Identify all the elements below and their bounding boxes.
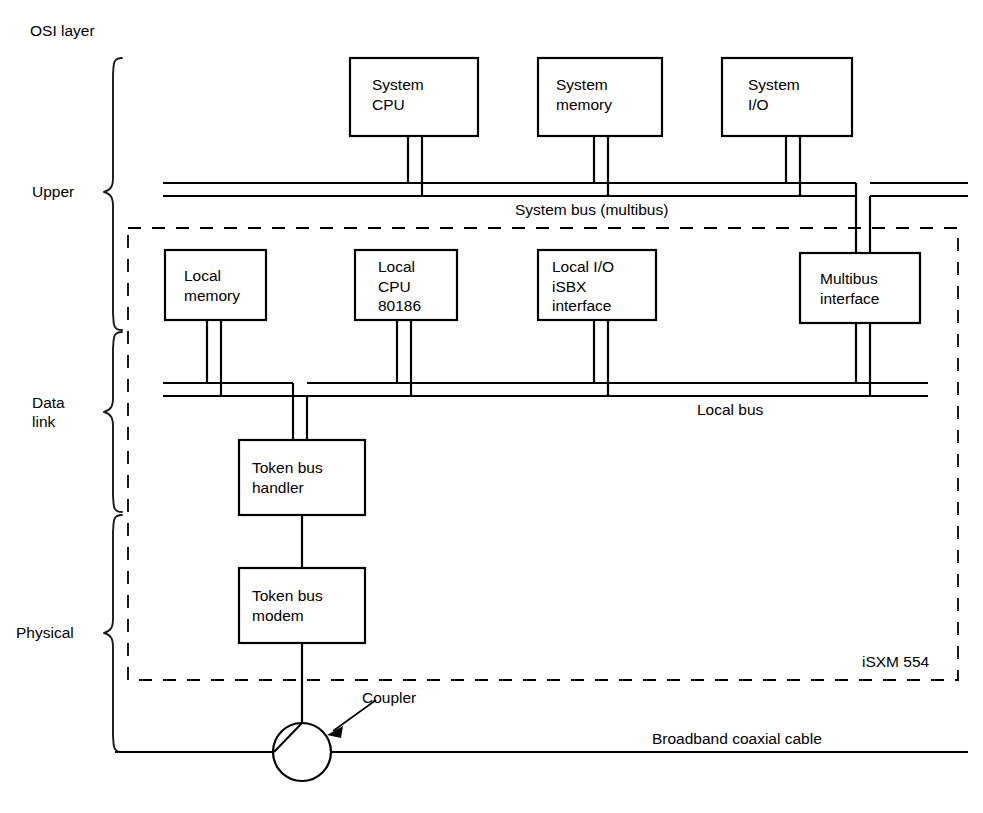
page-title: OSI layer bbox=[30, 22, 95, 40]
bus-label-system-bus: System bus (multibus) bbox=[515, 200, 668, 219]
box-local-cpu-80186[interactable] bbox=[355, 250, 457, 320]
box-token-bus-handler[interactable] bbox=[239, 440, 365, 515]
osi-layer-label-physical: Physical bbox=[16, 623, 74, 642]
box-token-bus-modem[interactable] bbox=[239, 568, 365, 643]
annotation-label-coupler: Coupler bbox=[362, 688, 416, 707]
osi-layer-label-upper: Upper bbox=[32, 182, 74, 201]
box-local-memory[interactable] bbox=[165, 250, 266, 320]
coupler-callout-arrowhead bbox=[327, 726, 343, 738]
box-system-io[interactable] bbox=[722, 58, 852, 136]
box-local-io-isbx-interface[interactable] bbox=[538, 250, 656, 320]
bus-label-local-bus: Local bus bbox=[697, 400, 763, 419]
osi-layer-label-data-link: Data link bbox=[32, 393, 65, 431]
bracket-physical bbox=[104, 515, 122, 752]
bracket-data-link bbox=[104, 332, 122, 512]
diagram-vector-layer bbox=[0, 0, 983, 813]
coupler-circle[interactable] bbox=[273, 723, 331, 781]
bus-label-broadband-coaxial-cable: Broadband coaxial cable bbox=[652, 729, 822, 748]
box-system-cpu[interactable] bbox=[350, 58, 478, 136]
box-multibus-interface[interactable] bbox=[800, 253, 920, 323]
enclosure-label-isxm-554: iSXM 554 bbox=[862, 652, 929, 671]
bracket-upper bbox=[104, 58, 122, 330]
diagram-canvas: OSI layer Upper Data link Physical Syste… bbox=[0, 0, 983, 813]
box-system-memory[interactable] bbox=[538, 58, 662, 136]
